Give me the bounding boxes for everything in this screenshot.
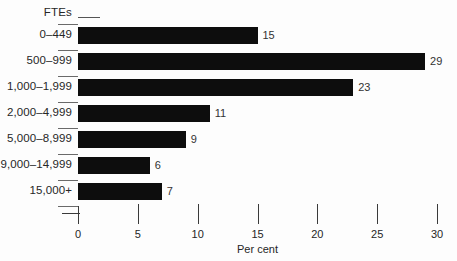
x-axis-tick xyxy=(437,204,438,224)
category-label: 0–449 xyxy=(0,28,72,40)
bar-value-label: 9 xyxy=(191,133,197,145)
x-axis-tick-label: 5 xyxy=(123,228,153,240)
x-axis-tick-label: 0 xyxy=(63,228,93,240)
x-axis-origin-stub xyxy=(62,213,80,214)
x-axis-tick-label: 30 xyxy=(422,228,452,240)
bar xyxy=(78,157,150,174)
bar-row: 500–99929 xyxy=(0,50,457,76)
x-axis-tick-label: 15 xyxy=(243,228,273,240)
y-axis-tick xyxy=(58,154,78,155)
x-axis-tick xyxy=(138,204,139,224)
bar-row: 15,000+7 xyxy=(0,180,457,206)
bar-value-label: 23 xyxy=(358,81,370,93)
category-label: 9,000–14,999 xyxy=(0,158,72,170)
bar xyxy=(78,79,353,96)
x-axis-tick xyxy=(198,204,199,224)
bar-value-label: 6 xyxy=(155,159,161,171)
category-label: 15,000+ xyxy=(0,184,72,196)
x-axis-tick xyxy=(377,204,378,224)
bar xyxy=(78,53,425,70)
x-axis-tick xyxy=(317,204,318,224)
y-axis-tick xyxy=(58,50,78,51)
x-axis-tick xyxy=(78,206,79,224)
category-label: 500–999 xyxy=(0,54,72,66)
bar-value-label: 29 xyxy=(430,55,442,67)
plot-area: 0–44915500–999291,000–1,999232,000–4,999… xyxy=(0,0,457,261)
bar-chart: FTEs 0–44915500–999291,000–1,999232,000–… xyxy=(0,0,457,261)
y-axis-tick xyxy=(58,76,78,77)
category-label: 5,000–8,999 xyxy=(0,132,72,144)
bar-row: 2,000–4,99911 xyxy=(0,102,457,128)
y-axis-tick xyxy=(58,24,78,25)
bar xyxy=(78,183,162,200)
bar-value-label: 7 xyxy=(167,185,173,197)
x-axis-tick xyxy=(258,204,259,224)
bar-value-label: 11 xyxy=(215,107,226,119)
bar-value-label: 15 xyxy=(263,29,275,41)
bar-row: 5,000–8,9999 xyxy=(0,128,457,154)
bar xyxy=(78,105,210,122)
x-axis-tick-label: 10 xyxy=(183,228,213,240)
bar-row: 9,000–14,9996 xyxy=(0,154,457,180)
x-axis-tick-label: 25 xyxy=(362,228,392,240)
bar xyxy=(78,131,186,148)
bar xyxy=(78,27,258,44)
bar-row: 1,000–1,99923 xyxy=(0,76,457,102)
y-axis-tick xyxy=(58,102,78,103)
category-label: 2,000–4,999 xyxy=(0,106,72,118)
y-axis-tick xyxy=(58,206,78,207)
y-axis-tick xyxy=(58,128,78,129)
y-axis-tick xyxy=(58,180,78,181)
bar-row: 0–44915 xyxy=(0,24,457,50)
x-axis-title: Per cent xyxy=(198,243,318,255)
category-label: 1,000–1,999 xyxy=(0,80,72,92)
x-axis-tick-label: 20 xyxy=(302,228,332,240)
